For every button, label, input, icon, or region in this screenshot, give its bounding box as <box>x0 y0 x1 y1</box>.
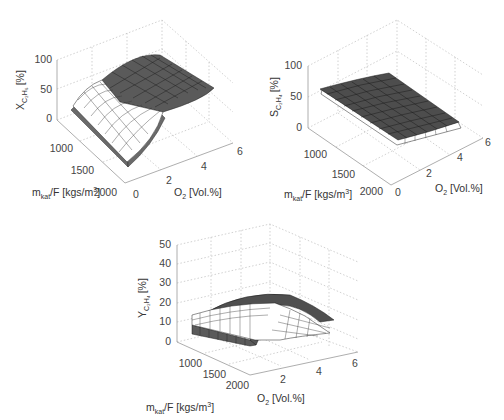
z-tick: 100 <box>34 53 52 65</box>
mkat-tick: 1500 <box>332 168 356 180</box>
z-tick: 0 <box>296 121 302 133</box>
mkat-axis-label: mkat/F [kgs/m3] <box>32 186 100 200</box>
panel-selectivity: 100 50 0 1000 1500 2000 0 2 4 6 SC₂H₄[%]… <box>268 20 491 202</box>
o2-tick: 6 <box>485 136 491 148</box>
o2-tick: 4 <box>316 365 322 377</box>
o2-tick: 0 <box>395 186 401 198</box>
panel-yield: 50 40 30 20 10 0 1000 1500 2000 2 4 6 YC… <box>136 224 358 415</box>
o2-tick: 2 <box>166 174 172 186</box>
z-tick: 40 <box>159 257 171 269</box>
o2-tick: 2 <box>426 167 432 179</box>
mkat-tick: 1000 <box>304 148 328 160</box>
mkat-tick: 2000 <box>226 379 250 391</box>
z-axis-label: YC₂H₄[%] <box>136 278 150 318</box>
z-tick: 20 <box>159 296 171 308</box>
z-tick: 100 <box>284 59 302 71</box>
mkat-tick: 1500 <box>71 164 95 176</box>
z-axis-label: XC₂H₆[%] <box>14 70 28 110</box>
mkat-tick: 2000 <box>360 185 384 197</box>
mkat-tick: 1000 <box>50 142 74 154</box>
mkat-axis-label: mkat/F [kgs/m3] <box>284 188 352 202</box>
o2-tick: 2 <box>280 373 286 385</box>
figure-canvas: 100 50 0 1000 1500 2000 0 2 4 6 XC₂H₆[%]… <box>0 0 504 420</box>
z-tick: 50 <box>40 83 52 95</box>
mkat-axis-label: mkat/F [kgs/m3] <box>146 401 214 415</box>
z-tick: 50 <box>290 90 302 102</box>
o2-tick: 4 <box>457 151 463 163</box>
z-tick: 10 <box>159 315 171 327</box>
o2-axis-label: O2 [Vol.%] <box>174 186 222 200</box>
z-tick: 0 <box>165 335 171 347</box>
mkat-tick: 1000 <box>179 357 203 369</box>
o2-axis-label: O2 [Vol.%] <box>435 182 483 196</box>
mkat-tick: 1500 <box>203 368 227 380</box>
o2-tick: 6 <box>237 145 243 157</box>
o2-tick: 4 <box>201 160 207 172</box>
z-tick: 30 <box>159 276 171 288</box>
o2-axis <box>250 352 358 375</box>
z-tick: 50 <box>159 238 171 250</box>
o2-tick: 0 <box>133 188 139 200</box>
z-axis-label: SC₂H₄[%] <box>268 77 282 117</box>
o2-tick: 6 <box>352 357 358 369</box>
o2-axis-label: O2 [Vol.%] <box>257 392 305 406</box>
z-tick: 0 <box>46 112 52 124</box>
o2-axis <box>391 138 483 185</box>
panel-conversion: 100 50 0 1000 1500 2000 0 2 4 6 XC₂H₆[%]… <box>14 20 243 200</box>
